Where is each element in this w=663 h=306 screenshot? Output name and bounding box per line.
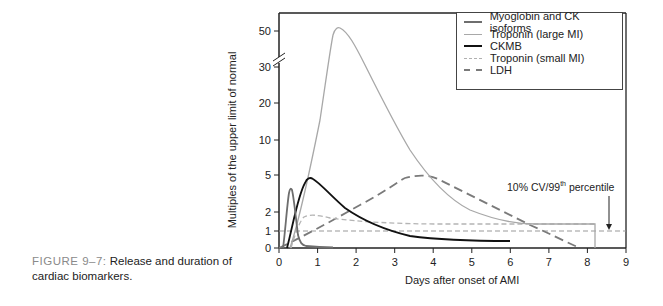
svg-text:20: 20 <box>259 97 271 109</box>
series-troponin-small-mi <box>291 215 595 248</box>
legend-swatch-icon <box>464 58 482 59</box>
svg-text:6: 6 <box>507 256 513 268</box>
legend-swatch-icon <box>464 69 482 71</box>
svg-text:0: 0 <box>265 242 271 254</box>
legend-label: CKMB <box>490 40 522 52</box>
legend-label: LDH <box>490 64 512 76</box>
svg-text:5: 5 <box>469 256 475 268</box>
svg-text:8: 8 <box>584 256 590 268</box>
svg-text:3: 3 <box>392 256 398 268</box>
svg-text:2: 2 <box>265 206 271 218</box>
svg-text:0: 0 <box>276 256 282 268</box>
annotation-99th-percentile: 10% CV/99th percentile <box>507 180 614 193</box>
legend: Myoglobin and CK isoforms Troponin (larg… <box>456 12 623 90</box>
legend-item-ldh: LDH <box>464 64 622 76</box>
legend-label: Troponin (large MI) <box>490 28 583 40</box>
svg-text:7: 7 <box>546 256 552 268</box>
y-axis-label: Multiples of the upper limit of normal <box>226 52 238 229</box>
svg-text:30: 30 <box>259 61 271 73</box>
svg-text:10: 10 <box>259 134 271 146</box>
legend-swatch-icon <box>464 45 482 47</box>
svg-text:1: 1 <box>265 225 271 237</box>
x-axis-label: Days after onset of AMI <box>405 274 519 286</box>
legend-item-troponin-small: Troponin (small MI) <box>464 52 622 64</box>
figure-label: FIGURE 9–7: <box>32 255 107 267</box>
series-myoglobin <box>283 189 333 248</box>
svg-text:2: 2 <box>353 256 359 268</box>
legend-swatch-icon <box>464 34 482 35</box>
legend-label: Troponin (small MI) <box>490 52 584 64</box>
svg-text:9: 9 <box>623 256 629 268</box>
y-tick-labels: 0 1 2 5 10 20 30 50 <box>259 25 271 254</box>
svg-text:50: 50 <box>259 25 271 37</box>
legend-item-ckmb: CKMB <box>464 40 622 52</box>
figure-caption: FIGURE 9–7: Release and duration of card… <box>32 254 232 284</box>
legend-swatch-icon <box>464 21 482 23</box>
annotation-arrow-icon <box>606 196 612 230</box>
svg-text:4: 4 <box>430 256 436 268</box>
x-tick-labels: 0 1 2 3 4 5 6 7 8 9 <box>276 256 629 268</box>
svg-text:1: 1 <box>315 256 321 268</box>
legend-item-myoglobin: Myoglobin and CK isoforms <box>464 16 622 28</box>
svg-text:5: 5 <box>265 169 271 181</box>
